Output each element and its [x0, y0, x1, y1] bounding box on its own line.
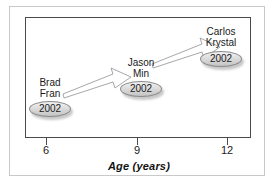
node-brad-fran-year: 2002	[29, 101, 71, 117]
node-carlos-krystal-line2: Krystal	[196, 37, 246, 48]
node-jason-min-year: 2002	[120, 81, 162, 97]
node-carlos-krystal: Carlos Krystal 2002	[196, 26, 246, 68]
node-jason-min-year-badge: 2002	[120, 81, 162, 98]
axis-tick-label-12: 12	[221, 144, 233, 156]
x-axis-title: Age (years)	[0, 160, 278, 172]
node-brad-fran-line2: Fran	[26, 88, 74, 99]
node-carlos-krystal-year: 2002	[200, 51, 242, 67]
node-carlos-krystal-line1: Carlos	[196, 26, 246, 37]
node-jason-min: Jason Min 2002	[117, 57, 165, 98]
node-brad-fran-line1: Brad	[26, 77, 74, 88]
node-jason-min-line2: Min	[117, 68, 165, 79]
node-carlos-krystal-year-badge: 2002	[200, 51, 242, 68]
axis-tick-label-6: 6	[43, 144, 49, 156]
node-jason-min-line1: Jason	[117, 57, 165, 68]
node-brad-fran-year-badge: 2002	[29, 101, 71, 118]
node-brad-fran: Brad Fran 2002	[26, 77, 74, 118]
axis-tick-label-9: 9	[134, 144, 140, 156]
age-timeline-figure: 6 9 12 Age (years) Brad Fran 2002 Jason …	[0, 0, 278, 187]
